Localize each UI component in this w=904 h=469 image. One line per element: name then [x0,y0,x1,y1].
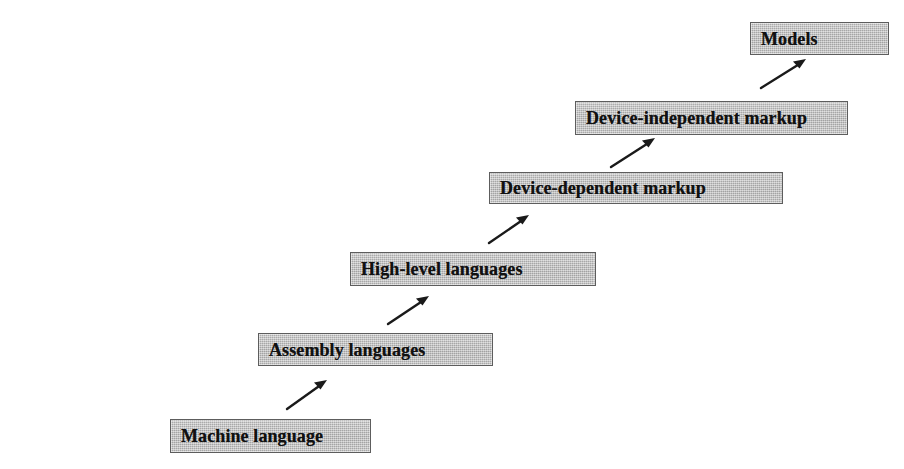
arrow-layer [0,0,904,469]
arrow-machine-to-assembly [287,380,327,409]
step-box-device-dependent-markup[interactable]: Device-dependent markup [489,172,783,204]
step-box-machine-language[interactable]: Machine language [170,419,371,453]
step-box-models[interactable]: Models [750,22,889,55]
arrow-assembly-to-high-level [388,296,429,324]
arrow-device-independent-to-models [761,59,806,88]
arrow-device-dependent-to-device-independent [611,138,655,167]
step-label-models: Models [751,30,818,48]
step-box-device-independent-markup[interactable]: Device-independent markup [575,101,848,135]
step-label-high-level-languages: High-level languages [351,260,523,278]
step-label-machine-language: Machine language [171,427,323,445]
step-label-assembly-languages: Assembly languages [259,341,425,359]
step-label-device-independent-markup: Device-independent markup [576,109,807,127]
step-box-high-level-languages[interactable]: High-level languages [350,252,596,286]
arrow-high-level-to-device-dependent [489,215,529,243]
step-label-device-dependent-markup: Device-dependent markup [490,179,706,197]
abstraction-staircase-diagram: Machine language Assembly languages High… [0,0,904,469]
step-box-assembly-languages[interactable]: Assembly languages [258,333,493,366]
